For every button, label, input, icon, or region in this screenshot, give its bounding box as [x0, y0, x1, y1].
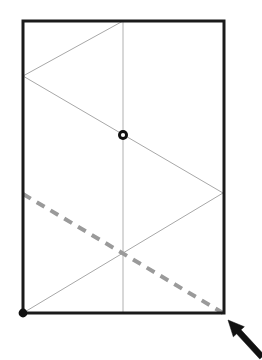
open-ring-marker — [118, 130, 128, 140]
geometry-diagram — [0, 0, 262, 360]
filled-dot-marker — [19, 309, 28, 318]
figure-canvas — [0, 0, 262, 360]
